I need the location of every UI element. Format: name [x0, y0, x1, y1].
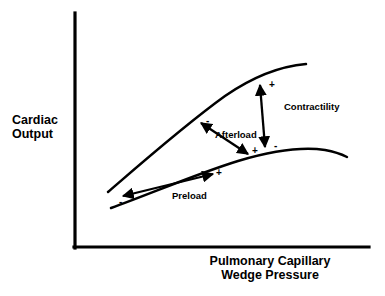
x-axis-label-line1: Pulmonary Capillary: [210, 254, 331, 268]
contractility-label: Contractility: [284, 101, 339, 112]
preload-plus-sign: +: [216, 168, 222, 178]
x-axis-label-line2: Wedge Pressure: [221, 268, 319, 282]
cardiac-output-frank-starling-figure: CardiacOutput Pulmonary CapillaryWedge P…: [0, 0, 385, 296]
contractility-plus-sign: +: [269, 80, 275, 90]
y-axis-label-line2: Output: [12, 127, 53, 141]
x-axis-label: Pulmonary CapillaryWedge Pressure: [170, 254, 370, 283]
afterload-plus-sign: +: [252, 146, 258, 156]
afterload-label: Afterload: [215, 129, 257, 140]
preload-label: Preload: [172, 190, 207, 201]
preload-minus-sign: -: [119, 197, 122, 207]
y-axis-label: CardiacOutput: [12, 113, 58, 142]
contractility-minus-sign: -: [274, 141, 277, 151]
contractility-arrow: [260, 85, 265, 147]
y-axis-label-line1: Cardiac: [12, 113, 58, 127]
plot-canvas: [0, 0, 385, 296]
afterload-minus-sign: -: [206, 116, 209, 126]
